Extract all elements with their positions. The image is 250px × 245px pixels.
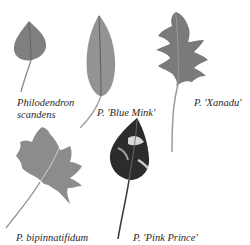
- blue-mink-caption: P. 'Blue Mink': [97, 107, 155, 119]
- bipinnatifidum-leaf: [6, 127, 82, 228]
- xanadu-caption: P. 'Xanadu': [194, 97, 241, 109]
- scandens-caption-line1: Philodendron: [17, 97, 74, 109]
- xanadu-leaf: [156, 12, 208, 152]
- bipinnatifidum-caption: P. bipinnatifidum: [16, 232, 88, 244]
- scandens-caption-line2: scandens: [17, 109, 74, 121]
- philodendron-leaf-figure: Philodendron scandens P. 'Blue Mink' P. …: [0, 0, 250, 245]
- pink-prince-caption: P. 'Pink Prince': [133, 232, 198, 244]
- scandens-caption: Philodendron scandens: [17, 97, 74, 121]
- leaf-illustrations: [0, 0, 250, 245]
- pink-prince-leaf: [110, 118, 149, 239]
- scandens-leaf: [14, 21, 46, 92]
